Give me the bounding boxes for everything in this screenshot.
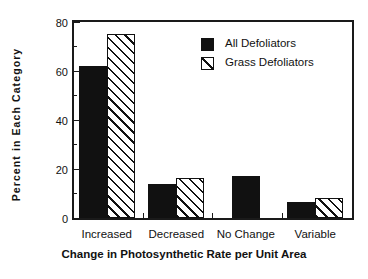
hatched-square-swatch — [201, 57, 214, 70]
x-axis-label-no-change: No Change — [211, 226, 281, 242]
x-axis-label-variable: Variable — [281, 226, 351, 242]
y-axis-tick-20: 20 — [73, 169, 80, 170]
solid-square-swatch — [201, 38, 214, 51]
bar-decreased-all-defoliators — [148, 184, 176, 218]
legend-entry-all-defoliators: All Defoliators — [201, 36, 314, 52]
y-axis-tick-10 — [73, 193, 77, 194]
y-axis-tick-label-80: 80 — [56, 17, 68, 28]
bar-chart-figure: Percent in Each Category 020406080 Incre… — [0, 0, 368, 279]
y-axis-tick-70 — [73, 46, 77, 47]
y-axis-tick-label-20: 20 — [56, 164, 68, 175]
bar-variable-grass-defoliators — [315, 198, 343, 218]
y-axis-tick-40: 40 — [73, 120, 80, 121]
chart-legend: All DefoliatorsGrass Defoliators — [201, 36, 314, 74]
y-axis-tick-label-40: 40 — [56, 115, 68, 126]
y-axis-tick-label-60: 60 — [56, 66, 68, 77]
y-axis-title: Percent in Each Category — [8, 12, 24, 237]
bar-increased-all-defoliators — [79, 66, 107, 218]
x-axis-category-labels: IncreasedDecreasedNo ChangeVariable — [72, 226, 354, 242]
x-axis-tick-3 — [282, 213, 283, 219]
legend-entry-grass-defoliators: Grass Defoliators — [201, 55, 314, 71]
bar-variable-all-defoliators — [287, 202, 315, 218]
y-axis-tick-60: 60 — [73, 71, 80, 72]
x-axis-label-increased: Increased — [72, 226, 142, 242]
x-axis-tick-1 — [143, 213, 144, 219]
y-axis-tick-0: 0 — [73, 218, 80, 219]
x-axis-tick-2 — [212, 213, 213, 219]
x-axis-label-decreased: Decreased — [142, 226, 212, 242]
legend-label-grass-defoliators: Grass Defoliators — [225, 57, 314, 69]
y-axis-tick-50 — [73, 95, 77, 96]
y-axis-tick-80: 80 — [73, 22, 80, 23]
legend-label-all-defoliators: All Defoliators — [225, 38, 296, 50]
bar-increased-grass-defoliators — [107, 34, 135, 218]
bar-decreased-grass-defoliators — [176, 178, 204, 218]
x-axis-title: Change in Photosynthetic Rate per Unit A… — [0, 248, 368, 260]
bar-no-change-all-defoliators — [232, 176, 260, 218]
y-axis-tick-label-0: 0 — [62, 213, 68, 224]
y-axis-tick-30 — [73, 144, 77, 145]
